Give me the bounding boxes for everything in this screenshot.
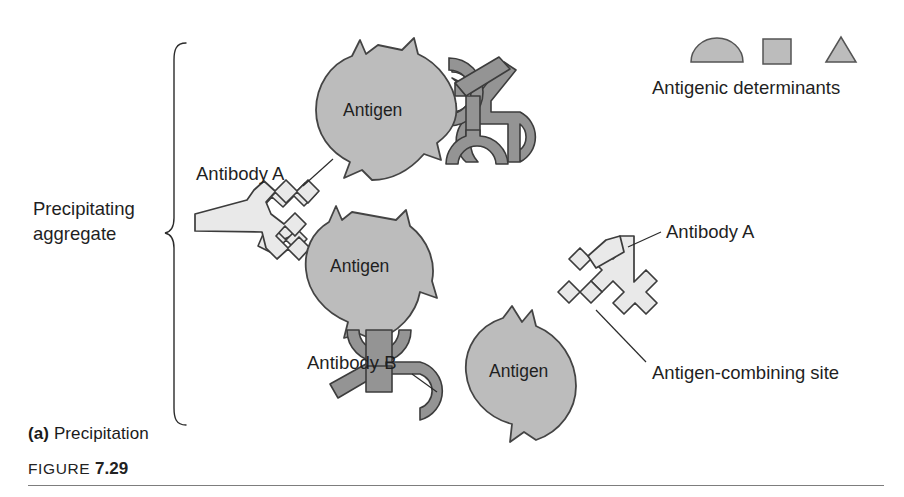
precipitation-diagram: Precipitating aggregate Antigenic determ… <box>0 0 904 497</box>
bracket-label-line2: aggregate <box>33 223 116 244</box>
antigen-middle-label: Antigen <box>330 256 389 276</box>
square-determinant-icon <box>763 39 791 64</box>
antibody-a-right-label: Antibody A <box>666 221 755 242</box>
antibody-a-left-label: Antibody A <box>196 163 285 184</box>
antibody-a-left-leader <box>303 159 333 186</box>
antibody-b-center <box>330 330 442 420</box>
triangle-determinant-icon <box>826 37 856 62</box>
antibody-a-left-body <box>195 180 319 260</box>
antibody-a-right <box>558 236 657 314</box>
antigen-right-label: Antigen <box>489 361 548 381</box>
precipitating-aggregate-bracket <box>165 43 186 425</box>
legend-caption: Antigenic determinants <box>652 77 840 98</box>
antibody-b-label: Antibody B <box>307 352 396 373</box>
antigen-combining-site-leader <box>596 310 646 362</box>
dome-determinant-icon <box>691 38 743 62</box>
legend-group <box>691 37 856 64</box>
antigen-combining-site-label: Antigen-combining site <box>652 362 839 383</box>
antigen-top-label: Antigen <box>343 100 402 120</box>
bracket-label-line1: Precipitating <box>33 198 135 219</box>
figure-panel: Precipitating aggregate Antigenic determ… <box>0 0 904 497</box>
